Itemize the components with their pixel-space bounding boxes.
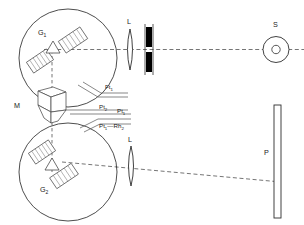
label-plate: P [264,148,269,157]
label-grating-upper: G1 [38,28,47,38]
grating-drum-lower[interactable]: G2 [19,123,117,221]
prism-lower [45,158,59,170]
diagram-canvas: G1 G2 [0,0,304,225]
optical-diagram-figure: G1 G2 [0,0,304,225]
lower-optical-axis [62,162,281,182]
prism-upper [46,41,60,53]
source-inner-ring [272,45,280,53]
photographic-plate[interactable]: P [264,105,281,218]
label-lead-ft: Ft1 [105,83,114,92]
mirror-bottom-wedge-right [51,110,66,123]
lead-wire-ft-a [78,85,128,97]
label-source: S [273,20,278,29]
lens-lower[interactable]: L [128,135,134,186]
label-lens-upper: L [127,17,131,26]
label-lens-lower: L [128,135,132,144]
lead-wires-group: Ft1 Pt2 Pt1 Pt1—Rh2 [66,82,131,132]
lens-lower-body [129,146,134,186]
lens-upper[interactable]: L [127,17,133,70]
label-mirror: M [14,101,20,110]
slit-jaw-top [146,27,152,47]
mirror-block[interactable]: M [14,87,66,123]
lens-upper-body [128,29,133,70]
optical-axis-group [44,50,304,183]
grating-drum-upper[interactable]: G1 [19,9,117,107]
label-lead-pt-rh: Pt1—Rh2 [99,122,124,131]
light-source[interactable]: S [263,20,289,63]
plate-body [274,105,281,218]
label-grating-lower: G2 [40,185,49,195]
slit-jaw-bottom [146,52,152,72]
